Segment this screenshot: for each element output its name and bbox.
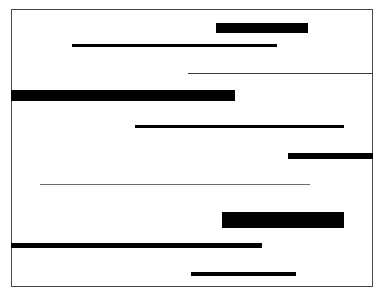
- bar-5-medium-long: [135, 125, 344, 128]
- bar-1-thick-right: [216, 23, 308, 33]
- bar-2-medium-center: [72, 44, 277, 47]
- bar-7-light-hairline: [40, 184, 310, 185]
- bar-10-medium-bottom: [191, 272, 296, 276]
- bar-8-thick-block: [222, 212, 344, 228]
- bar-6-thick-to-edge: [288, 153, 373, 159]
- bar-4-thick-from-left: [11, 90, 235, 101]
- figure-canvas: [0, 0, 384, 296]
- bar-9-heavy-from-left: [11, 243, 262, 248]
- bar-3-hairline-to-edge: [188, 73, 373, 74]
